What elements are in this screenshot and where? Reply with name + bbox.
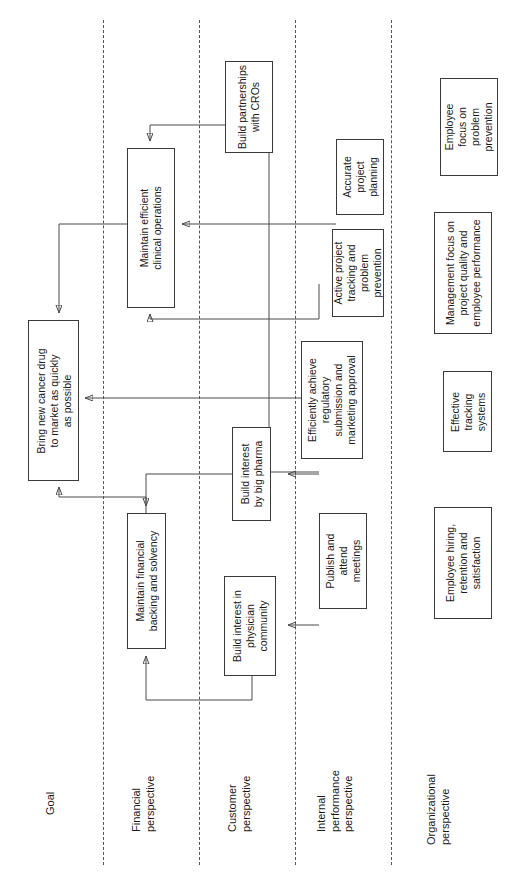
node-ops-clinical[interactable]: Maintain efficient clinical operations	[127, 148, 175, 308]
node-label: Accurate project planning	[341, 156, 380, 197]
node-label: Active project tracking and problem prev…	[332, 241, 384, 304]
node-fin-backing[interactable]: Maintain financial backing and solvency	[127, 513, 166, 649]
node-label: Publish and attend meetings	[324, 534, 363, 589]
node-label: Employee focus on problem prevention	[443, 102, 495, 151]
node-goal-drug[interactable]: Bring new cancer drug to market as quick…	[28, 320, 79, 481]
node-label: Build interest in physician community	[231, 590, 270, 662]
node-label: Maintain efficient clinical operations	[138, 186, 164, 269]
wire-clinical-to-goal	[59, 224, 127, 313]
node-label: Maintain financial backing and solvency	[134, 531, 160, 631]
node-org-tracking-sys[interactable]: Effective tracking systems	[443, 371, 492, 452]
node-int-planning[interactable]: Accurate project planning	[336, 139, 384, 215]
node-org-mgmt-focus[interactable]: Management focus on project quality and …	[434, 212, 492, 334]
node-label: Management focus on project quality and …	[444, 219, 483, 326]
node-int-tracking[interactable]: Active project tracking and problem prev…	[332, 229, 384, 317]
node-label: Employee hiring, retention and satisfact…	[444, 524, 483, 602]
node-org-hiring[interactable]: Employee hiring, retention and satisfact…	[434, 507, 492, 619]
node-label: Effective tracking systems	[448, 391, 487, 431]
node-label: Build interest by big pharma	[239, 441, 265, 508]
strategy-map-diagram: Goal Financial perspective Customer pers…	[0, 0, 507, 881]
node-cust-bigpharma[interactable]: Build interest by big pharma	[232, 427, 271, 521]
node-int-cro[interactable]: Build partnerships with CROs	[225, 61, 273, 153]
node-label: Build partnerships with CROs	[236, 65, 262, 149]
node-label: Efficiently achieve regulatory submissio…	[306, 355, 358, 444]
node-org-employee-focus[interactable]: Employee focus on problem prevention	[440, 78, 498, 176]
wire-tracking-to-clinical	[150, 284, 319, 319]
node-cust-physician[interactable]: Build interest in physician community	[224, 576, 276, 676]
wire-bigpharma-to-backing	[146, 474, 232, 506]
wire-cro-to-clinical	[150, 125, 232, 141]
node-label: Bring new cancer drug to market as quick…	[34, 348, 73, 453]
wire-backing-to-goal	[59, 487, 146, 513]
node-int-publish[interactable]: Publish and attend meetings	[319, 513, 367, 609]
node-int-regulatory[interactable]: Efficiently achieve regulatory submissio…	[301, 341, 363, 459]
